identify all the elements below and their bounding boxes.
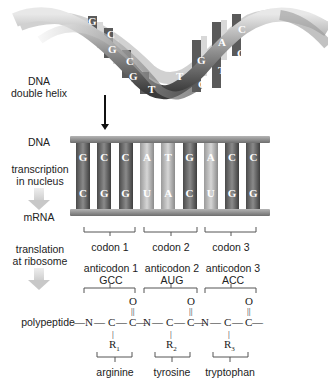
arrow-head <box>101 124 109 130</box>
translation-arrow-head <box>28 280 50 290</box>
label-polypeptide: polypeptide <box>16 316 80 328</box>
helix-base: A <box>218 36 226 48</box>
mrna-base: G <box>119 187 133 199</box>
helix-base: T <box>176 70 183 82</box>
helix-base: C <box>126 55 134 67</box>
amino-acid-3: tryptophan <box>198 366 262 378</box>
helix-base: G <box>129 70 138 82</box>
dna-base: C <box>246 151 260 163</box>
rung: C G <box>119 143 133 209</box>
oxygen-atom: O <box>187 295 195 307</box>
arrow-down-icon <box>104 95 106 126</box>
dna-base: C <box>97 151 111 163</box>
helix-base: G <box>88 15 97 27</box>
transcription-arrow-icon <box>34 188 44 200</box>
label-dna: DNA <box>8 136 70 148</box>
mrna-base: G <box>225 187 239 199</box>
anticodon-3: anticodon 3 ACC <box>200 262 266 286</box>
mrna-base: C <box>183 187 197 199</box>
dna-base: T <box>161 151 175 163</box>
alpha-carbon: C <box>166 316 173 328</box>
r-group-1: R1 <box>109 338 120 353</box>
r-group-2: R2 <box>166 338 177 353</box>
bottom-rail <box>70 209 270 216</box>
mrna-base: U <box>204 187 218 199</box>
dna-base: A <box>140 151 154 163</box>
r-group-3: R3 <box>224 338 235 353</box>
mrna-base: C <box>76 187 90 199</box>
rung: C G <box>246 143 260 209</box>
codon-label-2: codon 2 <box>141 241 201 253</box>
anticodon-1: anticodon 1 GCC <box>78 262 144 286</box>
anticodon-2: anticodon 2 AUG <box>139 262 205 286</box>
mrna-base: A <box>161 187 175 199</box>
dna-base: G <box>76 151 90 163</box>
alpha-carbon: C <box>224 316 231 328</box>
dna-mrna-ladder: G C C G C G A U T A G C A U C G C G <box>70 136 270 216</box>
label-mrna: mRNA <box>8 211 70 223</box>
dna-base: A <box>204 151 218 163</box>
label-dna-double-helix: DNA double helix <box>8 75 70 99</box>
label-translation: translation at ribosome <box>4 243 76 267</box>
codon-label-1: codon 1 <box>80 241 140 253</box>
helix-base: T <box>148 83 155 95</box>
helix-base: G <box>197 54 206 66</box>
mrna-base: U <box>140 187 154 199</box>
rung: A U <box>204 143 218 209</box>
amino-acid-1: arginine <box>85 366 145 378</box>
oxygen-atom: O <box>129 295 137 307</box>
nitrogen-atom: N <box>201 316 209 328</box>
transcription-arrow-head <box>28 200 50 210</box>
helix-base: C <box>107 28 115 40</box>
oxygen-atom: O <box>245 295 253 307</box>
rung: A U <box>140 143 154 209</box>
codon-label-3: codon 3 <box>201 241 261 253</box>
nitrogen-atom: N <box>143 316 151 328</box>
top-rail <box>70 136 270 143</box>
helix-base: G <box>108 43 117 55</box>
dna-base: C <box>119 151 133 163</box>
rung: C G <box>225 143 239 209</box>
dna-base: C <box>225 151 239 163</box>
mrna-base: G <box>97 187 111 199</box>
rung: C G <box>97 143 111 209</box>
helix-base: C <box>198 78 206 90</box>
helix-base: G <box>253 28 262 40</box>
amino-acid-2: tyrosine <box>142 366 202 378</box>
dna-base: G <box>183 151 197 163</box>
label-transcription: transcription in nucleus <box>4 163 76 187</box>
helix-base: G <box>237 47 246 59</box>
alpha-carbon: C <box>108 316 115 328</box>
translation-arrow-icon <box>34 268 44 280</box>
mrna-base: G <box>246 187 260 199</box>
rung: T A <box>161 143 175 209</box>
nitrogen-atom: N <box>85 316 93 328</box>
rung: G C <box>76 143 90 209</box>
helix-base: T <box>218 64 225 76</box>
helix-base: C <box>238 23 246 35</box>
rung: G C <box>183 143 197 209</box>
